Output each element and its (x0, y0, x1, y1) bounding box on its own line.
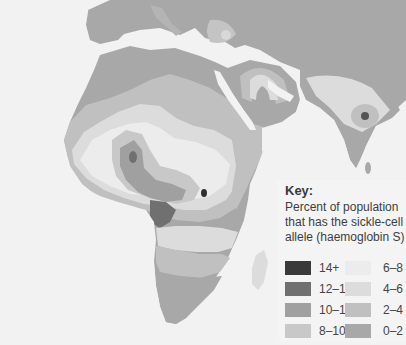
turkey-spot (221, 30, 231, 40)
swatch-0-2 (345, 324, 371, 338)
sri-lanka (365, 162, 371, 174)
key-label: 4–6 (383, 282, 403, 296)
swatch-12-14 (285, 282, 311, 296)
key-item-10-12: 10–12 (285, 302, 352, 318)
key-item-0-2: 0–2 (345, 323, 403, 339)
swatch-2-4 (345, 303, 371, 317)
india-hotspot (361, 112, 369, 120)
key-label: 0–2 (383, 324, 403, 338)
key-label: 6–8 (383, 261, 403, 275)
key-label: 14+ (319, 261, 339, 275)
key-item-6-8: 6–8 (345, 260, 403, 276)
key-label: 2–4 (383, 303, 403, 317)
key-description: Percent of population that has the sickl… (285, 200, 406, 245)
key-item-12-14: 12–14 (285, 281, 352, 297)
swatch-4-6 (345, 282, 371, 296)
band-southern-4-6 (156, 226, 238, 252)
key-label: 8–10 (319, 324, 346, 338)
key-item-2-4: 2–4 (345, 302, 403, 318)
key-title: Key: (285, 183, 313, 198)
map-key: Key: Percent of population that has the … (277, 180, 406, 342)
band-14-plus-east (201, 189, 207, 197)
key-item-8-10: 8–10 (285, 323, 346, 339)
key-item-14-plus: 14+ (285, 260, 339, 276)
sickle-cell-map: Key: Percent of population that has the … (0, 0, 406, 345)
swatch-8-10 (285, 324, 311, 338)
swatch-6-8 (345, 261, 371, 275)
swatch-10-12 (285, 303, 311, 317)
band-12-14-west (129, 151, 137, 163)
swatch-14-plus (285, 261, 311, 275)
key-item-4-6: 4–6 (345, 281, 403, 297)
